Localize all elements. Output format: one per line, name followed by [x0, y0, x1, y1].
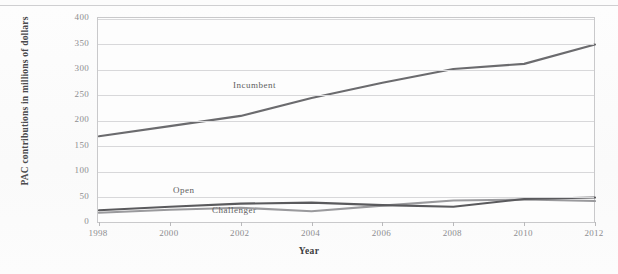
x-axis-tickmark — [170, 222, 171, 226]
y-axis-tick-label: 100 — [63, 165, 89, 175]
x-axis-tickmark — [595, 222, 596, 226]
x-axis-tick-label: 2008 — [432, 228, 472, 238]
x-axis-tick-label: 2000 — [149, 228, 189, 238]
x-axis-tickmark — [524, 222, 525, 226]
gridline — [98, 70, 594, 71]
y-axis-tick-label: 150 — [63, 140, 89, 150]
y-axis-title: PAC contributions in millions of dollars — [20, 0, 30, 206]
x-axis-tick-label: 2012 — [574, 228, 614, 238]
x-axis-tick-label: 2006 — [361, 228, 401, 238]
x-axis-tick-label: 2004 — [291, 228, 331, 238]
gridline — [98, 121, 594, 122]
series-label-open: Open — [173, 185, 195, 195]
gridline — [98, 146, 594, 147]
y-axis-tick-label: 0 — [63, 216, 89, 226]
plot-area — [97, 17, 595, 223]
y-axis-tick-label: 350 — [63, 38, 89, 48]
gridline — [98, 95, 594, 96]
x-axis-tick-label: 2002 — [220, 228, 260, 238]
chart-page: PAC contributions in millions of dollars… — [0, 0, 618, 274]
gridline — [98, 19, 594, 20]
line-incumbent — [99, 45, 595, 137]
y-axis-tick-label: 200 — [63, 114, 89, 124]
x-axis-tickmark — [453, 222, 454, 226]
x-axis-tickmark — [241, 222, 242, 226]
x-axis-tickmark — [312, 222, 313, 226]
y-axis-tick-label: 250 — [63, 89, 89, 99]
series-label-challenger: Challenger — [212, 205, 257, 215]
x-axis-tick-label: 1998 — [78, 228, 118, 238]
series-label-incumbent: Incumbent — [233, 80, 276, 90]
y-axis-tick-label: 400 — [63, 12, 89, 22]
x-axis-title: Year — [0, 246, 618, 256]
y-axis-tick-label: 300 — [63, 63, 89, 73]
x-axis-tick-label: 2010 — [503, 228, 543, 238]
gridline — [98, 44, 594, 45]
x-axis-tickmark — [99, 222, 100, 226]
gridline — [98, 197, 594, 198]
y-axis-tick-label: 50 — [63, 191, 89, 201]
gridline — [98, 172, 594, 173]
x-axis-tickmark — [382, 222, 383, 226]
